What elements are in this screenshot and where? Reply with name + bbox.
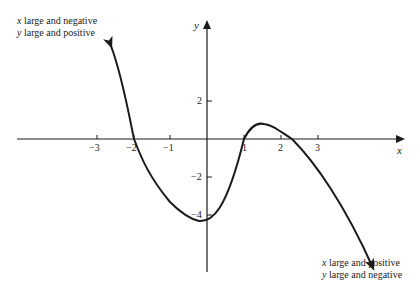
x-tick-label-m2: −2 bbox=[126, 143, 137, 153]
x-axis-label: x bbox=[397, 144, 402, 156]
y-ticks bbox=[207, 101, 212, 215]
x-tick-label-1: 1 bbox=[242, 143, 247, 153]
annotation-top-left: x large and negative y large and positiv… bbox=[17, 15, 97, 39]
polynomial-curve bbox=[111, 46, 373, 268]
x-tick-label-m3: −3 bbox=[89, 143, 100, 153]
annotation-text: large and positive bbox=[326, 257, 399, 268]
chart-canvas bbox=[0, 0, 420, 295]
y-tick-label-2: 2 bbox=[197, 96, 202, 106]
y-tick-label-m2: −2 bbox=[191, 172, 202, 182]
annotation-bottom-right: x large and positive y large and negativ… bbox=[322, 257, 402, 281]
annotation-text: large and negative bbox=[21, 15, 97, 26]
x-tick-label-m1: −1 bbox=[163, 143, 174, 153]
x-tick-label-3: 3 bbox=[315, 143, 320, 153]
y-tick-label-m4: −4 bbox=[191, 210, 202, 220]
x-tick-label-2: 2 bbox=[278, 143, 283, 153]
annotation-text: large and negative bbox=[326, 269, 402, 280]
annotation-text: large and positive bbox=[21, 27, 94, 38]
y-axis-label: y bbox=[194, 19, 199, 31]
